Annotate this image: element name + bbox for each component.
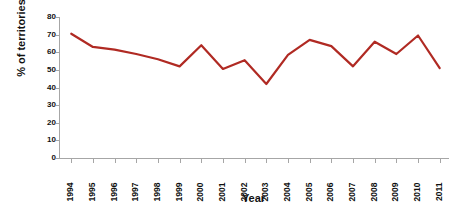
y-tick-mark — [56, 88, 60, 89]
y-tick-mark — [56, 140, 60, 141]
y-tick-mark — [56, 123, 60, 124]
x-axis-title: Year — [59, 192, 448, 204]
y-tick-mark — [56, 158, 60, 159]
line-chart: % of territories 01020304050607080 19941… — [0, 0, 458, 213]
y-tick-mark — [56, 35, 60, 36]
y-tick-mark — [56, 52, 60, 53]
y-tick-mark — [56, 70, 60, 71]
y-tick-label: 80 — [30, 13, 56, 21]
y-tick-label: 40 — [30, 84, 56, 92]
y-tick-label: 50 — [30, 66, 56, 74]
plot-area — [59, 17, 449, 159]
y-tick-label: 70 — [30, 31, 56, 39]
series-line-percent-of-territories — [71, 34, 439, 84]
y-axis-title: % of territories — [13, 0, 29, 118]
y-tick-label: 60 — [30, 48, 56, 56]
y-axis-tick-labels: 01020304050607080 — [30, 0, 56, 213]
y-tick-label: 20 — [30, 119, 56, 127]
y-tick-mark — [56, 105, 60, 106]
y-tick-label: 10 — [30, 136, 56, 144]
y-tick-label: 0 — [30, 154, 56, 162]
y-tick-mark — [56, 17, 60, 18]
data-line-svg — [60, 17, 449, 158]
y-tick-label: 30 — [30, 101, 56, 109]
